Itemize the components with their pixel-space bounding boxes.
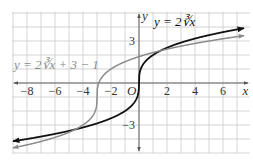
origin-label: O bbox=[127, 83, 137, 98]
x-tick-label: −4 bbox=[77, 84, 90, 98]
series-label-cbrt: y = 2∛x bbox=[152, 13, 196, 29]
x-tick-label: −8 bbox=[21, 84, 34, 98]
x-tick-label: 2 bbox=[164, 84, 170, 98]
x-tick-label: −2 bbox=[105, 84, 118, 98]
chart: −8−6−4−22463−3 x y O y = 2∛x y = 2∛x + 3… bbox=[0, 0, 253, 165]
y-tick-label: −3 bbox=[122, 118, 135, 132]
x-tick-label: −6 bbox=[49, 84, 62, 98]
x-tick-label: 4 bbox=[192, 84, 198, 98]
series-label-shifted-cbrt: y = 2∛x + 3 − 1 bbox=[12, 56, 99, 72]
y-axis-label: y bbox=[140, 8, 148, 23]
x-axis-label: x bbox=[242, 83, 249, 98]
x-tick-label: 6 bbox=[220, 84, 226, 98]
y-tick-label: 3 bbox=[129, 34, 135, 48]
